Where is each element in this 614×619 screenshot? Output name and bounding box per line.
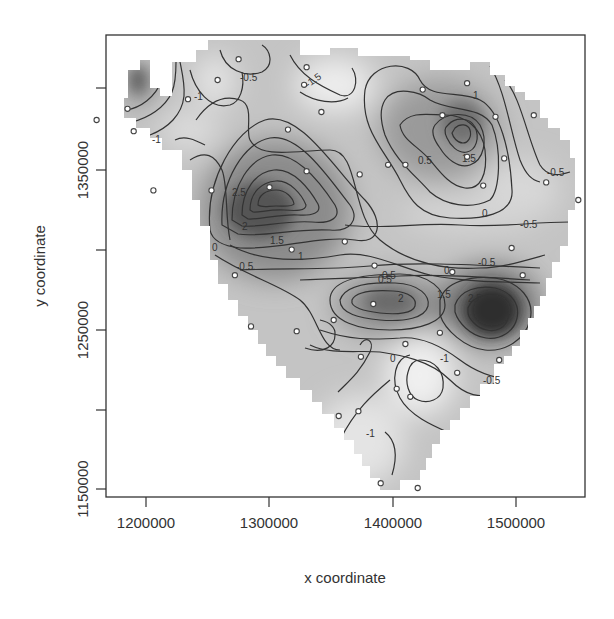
svg-text:0.5: 0.5 (418, 155, 432, 166)
sample-point (358, 354, 363, 359)
sample-point (185, 97, 190, 102)
svg-text:2.5: 2.5 (468, 293, 482, 304)
sample-point (502, 156, 507, 161)
sample-point (509, 245, 514, 250)
svg-text:-0.5: -0.5 (240, 72, 258, 83)
sample-point (576, 197, 581, 202)
svg-text:1300000: 1300000 (240, 514, 298, 531)
sample-point (437, 330, 442, 335)
svg-text:-0.5: -0.5 (478, 257, 496, 268)
sample-point (151, 188, 156, 193)
sample-point (372, 263, 377, 268)
sample-point (125, 106, 130, 111)
sample-point (403, 162, 408, 167)
svg-text:0: 0 (482, 208, 488, 219)
svg-text:-0.5: -0.5 (483, 375, 501, 386)
sample-point (294, 329, 299, 334)
contour-chart: -0.5 -1.5 -1 -1 2.5 2 1.5 1 0 -0.5 0.5 1… (0, 0, 614, 619)
svg-text:-1: -1 (366, 428, 375, 439)
svg-text:1.5: 1.5 (437, 289, 451, 300)
svg-text:-0.5: -0.5 (547, 167, 565, 178)
sample-point (394, 386, 399, 391)
svg-text:1.5: 1.5 (270, 235, 284, 246)
sample-point (520, 273, 525, 278)
sample-point (465, 81, 470, 86)
svg-text:1250000: 1250000 (74, 301, 91, 359)
svg-text:1500000: 1500000 (487, 514, 545, 531)
sample-point (415, 485, 420, 490)
sample-point (285, 127, 290, 132)
svg-text:1350000: 1350000 (74, 141, 91, 199)
sample-point (455, 370, 460, 375)
x-tick-labels: 1200000 1300000 1400000 1500000 (117, 514, 545, 531)
svg-text:-1: -1 (152, 134, 161, 145)
x-axis-title: x coordinate (304, 569, 386, 586)
sample-point (94, 117, 99, 122)
y-axis-title: y coordinate (31, 225, 48, 307)
sample-point (331, 317, 336, 322)
sample-point (450, 269, 455, 274)
sample-point (371, 301, 376, 306)
svg-text:-1: -1 (440, 353, 449, 364)
sample-point (232, 273, 237, 278)
sample-point (544, 180, 549, 185)
y-axis (96, 88, 106, 489)
svg-text:0: 0 (390, 353, 396, 364)
sample-point (493, 114, 498, 119)
y-tick-labels: 1350000 1250000 1150000 (74, 141, 91, 518)
sample-point (209, 188, 214, 193)
sample-point (497, 357, 502, 362)
svg-text:-1: -1 (194, 91, 203, 102)
svg-text:0.5: 0.5 (382, 270, 396, 281)
sample-point (465, 154, 470, 159)
sample-point (342, 239, 347, 244)
sample-point (403, 341, 408, 346)
svg-text:1: 1 (473, 90, 479, 101)
svg-text:-0.5: -0.5 (520, 219, 538, 230)
sample-point (357, 172, 362, 177)
sample-point (302, 82, 307, 87)
svg-text:0: 0 (444, 265, 450, 276)
sample-point (289, 247, 294, 252)
sample-point (356, 409, 361, 414)
svg-text:2.5: 2.5 (232, 187, 246, 198)
sample-point (236, 57, 241, 62)
sample-point (215, 77, 220, 82)
sample-point (267, 185, 272, 190)
svg-text:1150000: 1150000 (74, 460, 91, 517)
svg-text:-0.5: -0.5 (236, 261, 254, 272)
sample-point (440, 113, 445, 118)
sample-point (386, 162, 391, 167)
sample-point (304, 169, 309, 174)
sample-point (248, 324, 253, 329)
svg-text:1: 1 (298, 251, 304, 262)
svg-text:2: 2 (242, 221, 248, 232)
sample-point (378, 481, 383, 486)
svg-text:2: 2 (398, 293, 404, 304)
sample-point (420, 87, 425, 92)
sample-point (408, 394, 413, 399)
svg-text:1400000: 1400000 (364, 514, 422, 531)
sample-point (131, 129, 136, 134)
sample-point (336, 413, 341, 418)
sample-point (531, 113, 536, 118)
x-axis (146, 497, 516, 507)
sample-point (481, 183, 486, 188)
svg-text:0: 0 (212, 242, 218, 253)
sample-point (304, 65, 309, 70)
sample-point (319, 109, 324, 114)
svg-text:1200000: 1200000 (117, 514, 175, 531)
